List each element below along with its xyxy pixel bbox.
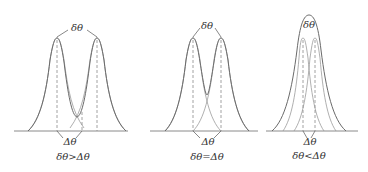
diagram-canvas: δθ Δθ δθ>Δθ δθ Δθ δθ=Δθ δθ Δθ δθ<Δθ: [0, 0, 368, 172]
panel-caption: δθ>Δθ: [56, 151, 90, 162]
left-peak-curve: [283, 38, 324, 131]
panel-caption: δθ<Δθ: [292, 150, 326, 161]
panel-rayleigh-limit: δθ Δθ δθ=Δθ: [150, 20, 258, 162]
peak-separation-label: δθ: [71, 22, 83, 33]
width-label: Δθ: [200, 136, 214, 147]
peak-separation-label: δθ: [201, 20, 213, 31]
combined-intensity-curve: [272, 15, 346, 131]
peak-separation-label: δθ: [303, 19, 315, 30]
width-label: Δθ: [302, 136, 316, 147]
panel-caption: δθ=Δθ: [190, 151, 224, 162]
panel-unresolved: δθ Δθ δθ<Δθ: [266, 15, 358, 161]
delta-theta-leader-left: [193, 28, 200, 37]
delta-theta-leader-right: [215, 28, 221, 37]
left-peak-curve: [28, 38, 84, 131]
width-label: Δθ: [62, 136, 76, 147]
delta-theta-leader-right: [87, 30, 97, 37]
panel-resolved: δθ Δθ δθ>Δθ: [14, 22, 128, 162]
right-peak-curve: [70, 38, 126, 131]
combined-intensity-curve: [165, 38, 249, 131]
delta-theta-leader-left: [57, 30, 68, 37]
combined-intensity-curve: [28, 38, 126, 131]
